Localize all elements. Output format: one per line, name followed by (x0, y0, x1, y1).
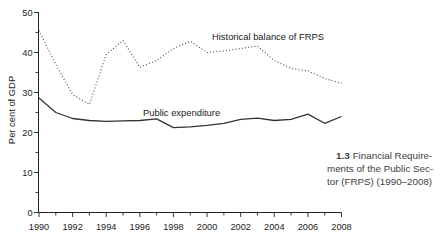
x-tick-label: 2002 (230, 222, 250, 232)
series-label-public-expenditure: Public expenditure (143, 107, 220, 118)
figure-caption: 1.3Financial Require- ments of the Publi… (327, 150, 445, 188)
caption-line-1: 1.3Financial Require- (327, 150, 445, 163)
y-tick-label: 30 (22, 88, 32, 98)
series-label-frps: Historical balance of FRPS (212, 31, 324, 42)
frps-figure: 0102030405019901992199419961998200020022… (0, 0, 445, 242)
frps-chart-svg: 0102030405019901992199419961998200020022… (0, 0, 445, 242)
x-tick-label: 1990 (29, 222, 49, 232)
x-tick-label: 2000 (197, 222, 217, 232)
y-tick-label: 0 (27, 208, 32, 218)
y-tick-label: 20 (22, 128, 32, 138)
caption-line-3: tor (FRPS) (1990–2008) (327, 176, 445, 189)
y-tick-label: 40 (22, 48, 32, 58)
y-tick-label: 50 (22, 8, 32, 18)
x-tick-label: 2008 (331, 222, 351, 232)
x-tick-label: 1994 (96, 222, 116, 232)
x-tick-label: 2006 (298, 222, 318, 232)
caption-line-2: ments of the Public Sec- (327, 163, 445, 176)
x-tick-label: 1998 (163, 222, 183, 232)
x-tick-label: 1996 (130, 222, 150, 232)
x-tick-label: 1992 (62, 222, 82, 232)
figure-number: 1.3 (336, 150, 350, 161)
y-axis-title: Per cent of GDP (6, 76, 17, 144)
x-tick-label: 2004 (264, 222, 284, 232)
y-tick-label: 10 (22, 168, 32, 178)
caption-text-1: Financial Require- (353, 150, 433, 161)
